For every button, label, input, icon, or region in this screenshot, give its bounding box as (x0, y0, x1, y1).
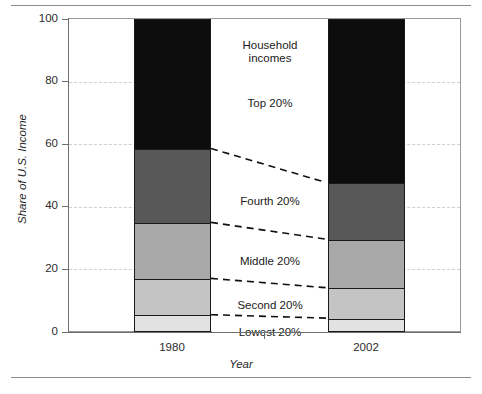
x-axis-title: Year (0, 358, 482, 370)
figure-canvas: Household incomes Top 20% Fourth 20% Mid… (0, 0, 482, 394)
y-tick-mark-60 (62, 144, 69, 145)
panel-heading: Household incomes (212, 39, 328, 65)
category-label-panel: Household incomes Top 20% Fourth 20% Mid… (212, 19, 328, 332)
panel-label-second-20: Second 20% (212, 299, 328, 312)
x-tick-label-2002: 2002 (326, 341, 406, 353)
bar-2002[interactable] (328, 19, 405, 332)
plot-area: Household incomes Top 20% Fourth 20% Mid… (68, 18, 461, 332)
bar-segment-1980-top-20[interactable] (134, 19, 211, 149)
bar-segment-1980-lowest-20[interactable] (134, 315, 211, 332)
top-divider-rule (11, 5, 471, 6)
y-axis-line (68, 18, 69, 332)
y-tick-mark-0 (62, 332, 69, 333)
y-tick-label-40: 40 (45, 200, 58, 212)
y-tick-label-80: 80 (45, 75, 58, 87)
y-tick-label-20: 20 (45, 263, 58, 275)
y-axis-title: Share of U.S. Income (16, 104, 28, 234)
bottom-divider-rule (11, 377, 471, 378)
x-tick-label-1980: 1980 (132, 341, 212, 353)
panel-label-middle-20: Middle 20% (212, 255, 328, 268)
bar-segment-1980-fourth-20[interactable] (134, 149, 211, 223)
bar-segment-2002-top-20[interactable] (328, 19, 405, 183)
y-tick-label-60: 60 (45, 138, 58, 150)
y-tick-mark-100 (62, 19, 69, 20)
bar-segment-1980-middle-20[interactable] (134, 223, 211, 279)
panel-label-top-20: Top 20% (212, 97, 328, 110)
y-tick-mark-20 (62, 269, 69, 270)
y-tick-mark-40 (62, 206, 69, 207)
bar-segment-2002-middle-20[interactable] (328, 240, 405, 289)
y-tick-label-0: 0 (52, 326, 58, 338)
panel-label-fourth-20: Fourth 20% (212, 195, 328, 208)
bar-1980[interactable] (134, 19, 211, 332)
y-tick-label-100: 100 (39, 13, 58, 25)
bar-segment-2002-lowest-20[interactable] (328, 319, 405, 332)
bar-segment-2002-fourth-20[interactable] (328, 183, 405, 240)
x-tick-mark-center (264, 333, 265, 339)
bar-segment-2002-second-20[interactable] (328, 288, 405, 318)
y-tick-mark-80 (62, 81, 69, 82)
bar-segment-1980-second-20[interactable] (134, 279, 211, 315)
